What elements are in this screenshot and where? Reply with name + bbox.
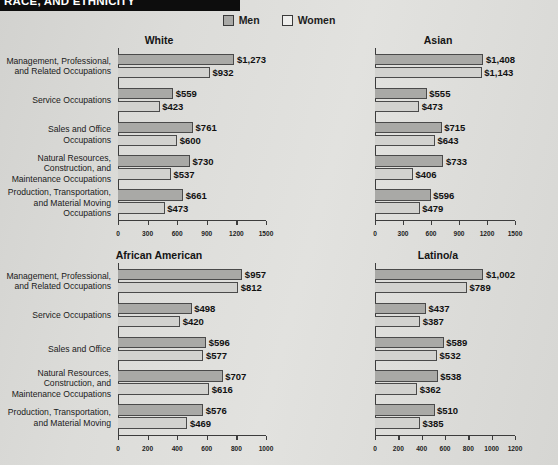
bar-group: $715$643 [375,117,515,151]
bar-women[interactable] [375,316,420,328]
bar-men[interactable] [375,155,443,167]
category-label: Production, Transportation, and Material… [0,186,115,220]
bar-men[interactable] [118,337,206,349]
bar-row: $498 [118,303,266,315]
bar-row: $437 [375,303,515,315]
x-axis-tick [515,436,516,440]
category-label: Sales and Office Occupations [0,117,115,151]
bar-men[interactable] [375,303,426,315]
bar-women[interactable] [375,101,419,113]
bar-row: $1,273 [118,54,266,66]
plot-area: 030060090012001500$1,273$932$559$423$761… [118,48,266,221]
bar-men[interactable] [118,155,190,167]
bar-value-label: $1,273 [237,54,266,65]
legend-swatch-men-icon [223,15,234,26]
bar-men[interactable] [118,269,242,281]
bar-value-label: $733 [446,156,467,167]
bar-men[interactable] [118,54,234,66]
chart-legend: Men Women [0,14,558,26]
bar-value-label: $600 [180,135,201,146]
bar-women[interactable] [375,383,417,395]
bar-women[interactable] [375,202,420,214]
bar-women[interactable] [118,67,210,79]
bar-women[interactable] [118,202,165,214]
x-axis-line [375,220,515,221]
bar-row: $957 [118,269,266,281]
bar-women[interactable] [375,135,435,147]
panel-grid: WhiteManagement, Professional, and Relat… [0,32,558,462]
legend-entry-women: Women [282,14,336,26]
category-label: Sales and Office [0,332,115,366]
x-axis-tick [177,436,178,440]
bar-value-label: $473 [422,101,443,112]
bar-row: $576 [118,404,266,416]
bar-row: $789 [375,282,515,294]
bar-men[interactable] [118,122,193,134]
bar-row: $385 [375,417,515,429]
bar-group: $596$479 [375,185,515,219]
bar-men[interactable] [375,337,444,349]
bar-row: $643 [375,135,515,147]
x-axis-tick-label: 300 [142,230,153,237]
bar-value-label: $730 [193,156,214,167]
bar-women[interactable] [118,383,209,395]
bar-women[interactable] [118,316,180,328]
bar-men[interactable] [375,189,431,201]
x-axis-tick-label: 200 [142,445,153,452]
bar-row: $589 [375,337,515,349]
bar-women[interactable] [118,350,203,362]
bar-men[interactable] [118,404,203,416]
legend-label-men: Men [239,14,260,26]
bar-women[interactable] [375,168,413,180]
bar-men[interactable] [118,88,173,100]
bar-group: $707$616 [118,366,266,400]
panel-title: Latino/a [318,249,558,261]
bar-row: $387 [375,316,515,328]
bar-value-label: $1,143 [484,67,513,78]
bar-women[interactable] [118,282,238,294]
bar-women[interactable] [118,135,177,147]
x-axis-tick-label: 300 [397,230,408,237]
bar-value-label: $538 [440,371,461,382]
bar-women[interactable] [118,101,160,113]
bar-row: $600 [118,135,266,147]
bar-group: $661$473 [118,185,266,219]
bar-men[interactable] [375,88,427,100]
bar-women[interactable] [375,67,482,79]
bar-men[interactable] [118,303,192,315]
bar-men[interactable] [375,370,438,382]
bar-men[interactable] [118,370,223,382]
x-axis-tick-label: 1000 [259,445,274,452]
bar-row: $406 [375,168,515,180]
x-axis-tick-label: 1200 [480,230,495,237]
bar-women[interactable] [375,417,420,429]
x-axis-tick [398,436,399,440]
x-axis-tick-label: 0 [373,230,377,237]
bar-row: $577 [118,350,266,362]
figure-canvas: RACE, AND ETHNICITY Men Women WhiteManag… [0,0,558,465]
x-axis-tick [148,436,149,440]
bar-value-label: $596 [209,337,230,348]
x-axis-tick-label: 1000 [484,445,499,452]
bar-women[interactable] [375,350,437,362]
bar-men[interactable] [118,189,183,201]
bar-women[interactable] [375,282,467,294]
category-axis-labels: Management, Professional, and Related Oc… [0,263,115,436]
bar-value-label: $812 [241,282,262,293]
bar-value-label: $616 [212,384,233,395]
bar-value-label: $932 [212,67,233,78]
x-axis-tick [177,221,178,225]
bar-men[interactable] [375,269,483,281]
bar-women[interactable] [118,417,187,429]
bar-women[interactable] [118,168,171,180]
x-axis-tick-label: 600 [172,230,183,237]
bar-men[interactable] [375,122,442,134]
x-axis-tick-label: 900 [453,230,464,237]
bar-groups: $1,273$932$559$423$761$600$730$537$661$4… [118,48,266,220]
bar-value-label: $1,002 [486,269,515,280]
bar-men[interactable] [375,54,483,66]
x-axis-tick [236,436,237,440]
bar-value-label: $555 [429,88,450,99]
bar-men[interactable] [375,404,435,416]
bar-row: $538 [375,370,515,382]
